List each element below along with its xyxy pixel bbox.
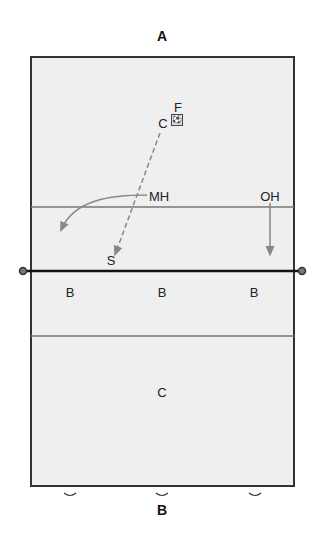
net-post-right bbox=[299, 268, 306, 275]
player-oh: OH bbox=[260, 189, 280, 204]
player-b-middle: B bbox=[158, 285, 167, 300]
player-mh: MH bbox=[149, 189, 169, 204]
marker-3 bbox=[249, 493, 261, 496]
volleyball-icon: ⚽ bbox=[171, 114, 183, 126]
player-c-a: C bbox=[158, 116, 167, 131]
marker-2 bbox=[156, 493, 168, 496]
player-f: F bbox=[174, 100, 182, 115]
player-b-left: B bbox=[66, 285, 75, 300]
team-b-label: B bbox=[157, 502, 167, 518]
player-c-b: C bbox=[157, 385, 166, 400]
marker-1 bbox=[64, 493, 76, 496]
player-s: S bbox=[107, 253, 116, 268]
net-post-left bbox=[20, 268, 27, 275]
mh-path-arrow bbox=[62, 195, 147, 228]
player-b-right: B bbox=[250, 285, 259, 300]
court-lines bbox=[0, 0, 322, 549]
